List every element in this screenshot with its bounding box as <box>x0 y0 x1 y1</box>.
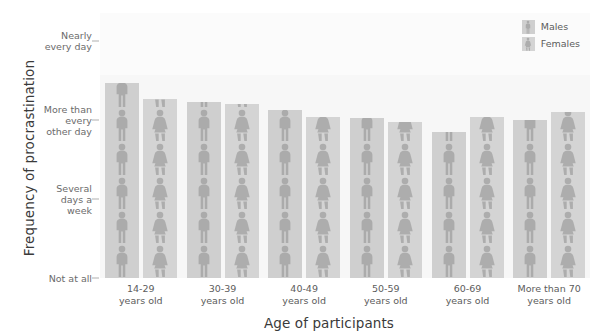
x-tick-label-line2: years old <box>508 295 590 307</box>
female-pictogram-icon <box>551 142 585 176</box>
legend-swatch <box>522 20 535 34</box>
male-pictogram-icon <box>187 108 221 142</box>
female-pictogram-icon <box>143 108 177 142</box>
x-tick-label-line2: years old <box>427 295 509 307</box>
bar-pictogram-fill <box>388 122 422 278</box>
male-pictogram-icon <box>105 108 139 142</box>
y-tick-mark <box>92 40 99 41</box>
bar-females[interactable] <box>388 122 422 278</box>
female-pictogram-icon <box>470 142 504 176</box>
male-pictogram-icon <box>187 176 221 210</box>
female-pictogram-icon <box>388 142 422 176</box>
bar-females[interactable] <box>551 112 585 278</box>
male-pictogram-icon <box>432 142 466 176</box>
y-tick-label: Nearlyevery day <box>0 30 92 52</box>
female-pictogram-icon <box>551 210 585 244</box>
x-tick-label-line1: 60-69 <box>427 283 509 295</box>
male-pictogram-icon <box>268 110 302 142</box>
female-pictogram-icon <box>225 108 259 142</box>
male-pictogram-icon <box>350 244 384 278</box>
bar-males[interactable] <box>513 120 547 278</box>
bar-females[interactable] <box>143 99 177 278</box>
male-pictogram-icon <box>187 142 221 176</box>
bar-pictogram-fill <box>225 104 259 278</box>
bars-layer <box>100 13 590 278</box>
male-pictogram-icon <box>350 142 384 176</box>
y-tick-label: Not at all <box>0 273 92 284</box>
bar-males[interactable] <box>432 132 466 278</box>
male-pictogram-icon <box>105 210 139 244</box>
x-axis-title-text: Age of participants <box>264 315 394 331</box>
x-tick-label: 40-49years old <box>263 283 345 306</box>
bar-pictogram-fill <box>268 110 302 278</box>
bar-males[interactable] <box>105 83 139 278</box>
y-tick-label: More thaneveryother day <box>0 103 92 136</box>
bar-pictogram-fill <box>513 120 547 278</box>
male-pictogram-icon <box>268 210 302 244</box>
legend-item-males[interactable]: Males <box>522 19 580 34</box>
bar-females[interactable] <box>306 117 340 278</box>
male-pictogram-icon <box>432 210 466 244</box>
female-pictogram-icon <box>470 117 504 142</box>
x-tick-label: 50-59years old <box>345 283 427 306</box>
female-pictogram-icon <box>143 176 177 210</box>
female-pictogram-icon <box>522 37 535 51</box>
x-tick-label-line2: years old <box>345 295 427 307</box>
bar-pictogram-fill <box>551 112 585 278</box>
female-pictogram-icon <box>225 244 259 278</box>
male-pictogram-icon <box>105 83 139 108</box>
female-pictogram-icon <box>388 210 422 244</box>
male-pictogram-icon <box>187 102 221 108</box>
female-pictogram-icon <box>551 244 585 278</box>
bar-males[interactable] <box>350 118 384 278</box>
bar-females[interactable] <box>470 117 504 278</box>
bar-pictogram-fill <box>350 118 384 278</box>
bar-females[interactable] <box>225 104 259 278</box>
male-pictogram-icon <box>187 210 221 244</box>
male-pictogram-icon <box>187 244 221 278</box>
bar-males[interactable] <box>268 110 302 278</box>
female-pictogram-icon <box>143 142 177 176</box>
legend-item-females[interactable]: Females <box>522 36 580 51</box>
legend-swatch <box>522 37 535 51</box>
male-pictogram-icon <box>513 142 547 176</box>
male-pictogram-icon <box>105 244 139 278</box>
female-pictogram-icon <box>306 244 340 278</box>
y-tick-mark <box>92 198 99 199</box>
male-pictogram-icon <box>105 176 139 210</box>
female-pictogram-icon <box>143 210 177 244</box>
male-pictogram-icon <box>350 210 384 244</box>
female-pictogram-icon <box>551 176 585 210</box>
female-pictogram-icon <box>225 176 259 210</box>
y-tick-mark <box>92 278 99 279</box>
y-axis-title: Frequency of procrastination <box>21 33 37 283</box>
male-pictogram-icon <box>432 176 466 210</box>
female-pictogram-icon <box>551 112 585 142</box>
bar-pictogram-fill <box>306 117 340 278</box>
male-pictogram-icon <box>513 244 547 278</box>
x-tick-label-line1: 40-49 <box>263 283 345 295</box>
female-pictogram-icon <box>306 176 340 210</box>
x-tick-label: 30-39years old <box>182 283 264 306</box>
female-pictogram-icon <box>470 210 504 244</box>
bar-males[interactable] <box>187 102 221 278</box>
x-tick-label-line1: 30-39 <box>182 283 264 295</box>
female-pictogram-icon <box>225 104 259 108</box>
male-pictogram-icon <box>268 142 302 176</box>
female-pictogram-icon <box>388 176 422 210</box>
bar-pictogram-fill <box>105 83 139 278</box>
male-pictogram-icon <box>522 20 535 34</box>
female-pictogram-icon <box>306 210 340 244</box>
female-pictogram-icon <box>143 244 177 278</box>
female-pictogram-icon <box>388 244 422 278</box>
legend-label: Males <box>541 21 568 32</box>
female-pictogram-icon <box>388 122 422 142</box>
x-tick-label-line2: years old <box>263 295 345 307</box>
female-pictogram-icon <box>143 99 177 108</box>
female-pictogram-icon <box>470 244 504 278</box>
male-pictogram-icon <box>432 244 466 278</box>
male-pictogram-icon <box>513 120 547 142</box>
y-tick-mark <box>92 119 99 120</box>
bar-pictogram-fill <box>432 132 466 278</box>
male-pictogram-icon <box>105 142 139 176</box>
